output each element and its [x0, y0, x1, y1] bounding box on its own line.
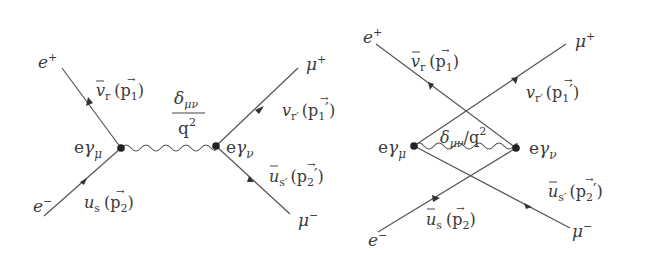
svg-text:vr(p1): vr(p1) [411, 52, 459, 74]
label-e-minus: e− [33, 195, 52, 216]
svg-text:us(p2): us(p2) [426, 210, 476, 232]
spinor-ubar-sprime-p2prime: us′(p2′) → [269, 159, 324, 189]
spinor-ubar-s-p2: us(p2) → [426, 203, 476, 232]
diagram-s-channel: e+ e− μ+ μ− vr(p1) → us(p2) → vr′(p1′) →… [33, 51, 335, 230]
label-mu-plus: μ+ [306, 53, 326, 74]
svg-text:vr(p1): vr(p1) [96, 81, 144, 103]
arrow-icon [524, 203, 532, 209]
vector-arrow-icon: → [307, 159, 316, 170]
vector-arrow-icon: → [441, 45, 450, 56]
label-mu-minus: μ− [298, 209, 318, 230]
vertex-factor-right: eγν [529, 138, 557, 162]
spinor-u-s-p2: us(p2) → [84, 186, 134, 215]
label-e-plus: e+ [363, 26, 382, 47]
svg-text:δμν: δμν [174, 88, 198, 111]
vertex-left [117, 144, 125, 152]
vector-arrow-icon: → [456, 203, 465, 214]
propagator-fraction: δμν q2 [172, 88, 205, 138]
vertex-factor-left: eγμ [74, 137, 102, 161]
muon-line [414, 146, 570, 228]
svg-text:q2: q2 [178, 116, 196, 138]
label-e-minus: e− [368, 229, 387, 250]
svg-text:us′(p2′): us′(p2′) [548, 180, 603, 204]
vertex-factor-left: eγμ [378, 137, 406, 161]
vector-arrow-icon: → [116, 186, 125, 197]
vertex-left [410, 142, 418, 150]
vector-arrow-icon: → [564, 75, 573, 86]
vertex-right [512, 144, 520, 152]
feynman-diagrams: e+ e− μ+ μ− vr(p1) → us(p2) → vr′(p1′) →… [0, 0, 649, 255]
diagram-crossed: e+ e− μ+ μ− vr(p1) → vr′(p1′) → us(p2) →… [363, 26, 603, 250]
vector-arrow-icon: → [127, 74, 136, 85]
spinor-vbar-r-p1: vr(p1) → [411, 45, 459, 74]
label-mu-minus: μ− [572, 220, 592, 241]
vertex-factor-right: eγν [226, 137, 254, 161]
spinor-v-rprime-p1prime: vr′(p1′) → [526, 75, 579, 105]
svg-text:us′(p2′): us′(p2′) [269, 165, 324, 189]
vector-arrow-icon: → [320, 93, 329, 104]
vertex-right [212, 142, 220, 150]
spinor-ubar-sprime-p2prime: us′(p2′) → [548, 174, 603, 204]
spinor-vbar-r-p1: vr(p1) → [96, 74, 144, 103]
vector-arrow-icon: → [585, 174, 594, 185]
spinor-v-rprime-p1prime: vr′(p1′) → [282, 93, 335, 123]
propagator-inline: δμν/q2 [440, 125, 486, 150]
positron-line [62, 68, 121, 148]
label-mu-plus: μ+ [575, 30, 595, 51]
label-e-plus: e+ [38, 51, 57, 72]
svg-text:us(p2): us(p2) [84, 193, 134, 215]
photon-propagator [121, 145, 216, 151]
